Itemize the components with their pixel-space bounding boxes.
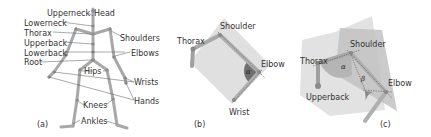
label-ankles: Ankles bbox=[81, 117, 108, 126]
label-thorax-c: Thorax bbox=[299, 57, 328, 66]
label-beta-c: β bbox=[360, 75, 365, 83]
label-shoulder-b: Shoulder bbox=[220, 22, 256, 31]
label-alpha-c: α bbox=[341, 63, 346, 71]
label-thorax: Thorax bbox=[23, 29, 52, 38]
caption-b: (b) bbox=[194, 120, 205, 129]
caption-c: (c) bbox=[380, 120, 391, 129]
label-wrist-b: Wrist bbox=[229, 108, 249, 117]
label-root: Root bbox=[24, 58, 42, 67]
label-shoulder-c: Shoulder bbox=[350, 40, 386, 49]
label-hands: Hands bbox=[134, 97, 159, 106]
label-shoulders: Shoulders bbox=[120, 34, 160, 43]
label-upperneck: Upperneck bbox=[47, 9, 90, 18]
label-alpha-b: α bbox=[246, 68, 251, 76]
label-thorax-b: Thorax bbox=[176, 37, 205, 46]
label-upperback-c: Upperback bbox=[306, 93, 350, 102]
skeleton-figure: Upperneck Head Lowerneck Thorax Upperbac… bbox=[0, 0, 431, 137]
panel-c-diagram bbox=[300, 16, 397, 121]
label-head: Head bbox=[94, 9, 115, 18]
label-elbow-c: Elbow bbox=[388, 79, 412, 88]
label-lowerneck: Lowerneck bbox=[24, 19, 67, 28]
label-lowerback: Lowerback bbox=[24, 49, 67, 58]
label-elbow-b: Elbow bbox=[261, 60, 285, 69]
label-elbows: Elbows bbox=[131, 49, 159, 58]
label-upperback: Upperback bbox=[24, 39, 68, 48]
label-hips: Hips bbox=[84, 67, 101, 76]
label-knees: Knees bbox=[83, 101, 107, 110]
panel-a-labels: Upperneck Head Lowerneck Thorax Upperbac… bbox=[23, 9, 160, 129]
label-wrists: Wrists bbox=[134, 78, 159, 87]
caption-a: (a) bbox=[37, 120, 48, 129]
